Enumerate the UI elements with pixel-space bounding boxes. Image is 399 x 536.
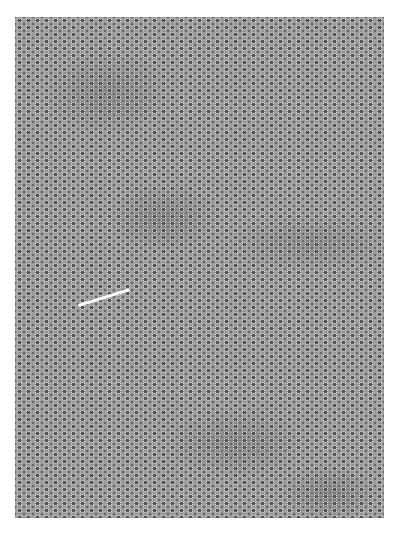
micrograph-image	[15, 17, 384, 518]
fiber-streak	[78, 288, 131, 307]
